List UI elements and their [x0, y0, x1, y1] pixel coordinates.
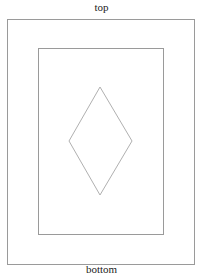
outer-rectangle: [8, 20, 195, 265]
bottom-label: bottom: [0, 263, 203, 275]
inner-rectangle: [39, 49, 164, 235]
diamond-shape: [69, 87, 132, 195]
diagram-canvas: [0, 0, 203, 277]
